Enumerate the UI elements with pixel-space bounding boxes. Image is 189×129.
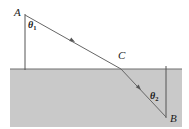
point-label-b: B — [170, 113, 177, 124]
ray-diagram-figure: A C B θ1 θ2 — [0, 0, 189, 129]
theta1-subscript: 1 — [33, 24, 36, 31]
angle-label-theta2: θ2 — [150, 91, 158, 101]
angle-label-theta1: θ1 — [28, 20, 36, 30]
incident-ray-a-to-c — [25, 15, 121, 69]
theta2-subscript: 2 — [155, 95, 158, 102]
point-label-a: A — [14, 7, 21, 18]
point-label-c: C — [118, 50, 125, 61]
